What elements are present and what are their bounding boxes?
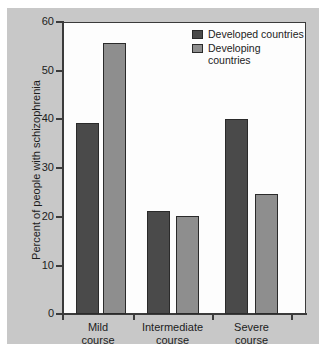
y-tick-label-20: 20 <box>42 211 54 222</box>
y-tick-50 <box>56 70 62 72</box>
legend-label-developed: Developed countries <box>208 28 304 40</box>
legend-swatch-developed-icon <box>192 30 203 39</box>
y-tick-label-10: 10 <box>42 260 54 271</box>
y-tick-label-0: 0 <box>48 308 54 319</box>
y-tick-20 <box>56 216 62 218</box>
y-tick-60 <box>56 21 62 23</box>
y-tick-40 <box>56 118 62 120</box>
x-tick-3 <box>291 314 293 320</box>
y-tick-10 <box>56 265 62 267</box>
x-category-label-intermediate: Intermediate course <box>133 321 212 347</box>
y-axis-title: Percent of people with schizophrenia <box>30 50 42 290</box>
legend-item-developing: Developing countries <box>192 42 304 66</box>
y-tick-30 <box>56 167 62 169</box>
x-category-label-severe: Severe course <box>212 321 291 347</box>
bar-developed-intermediate <box>147 211 170 314</box>
y-tick-label-50: 50 <box>42 65 54 76</box>
legend-label-developing: Developing countries <box>208 42 261 66</box>
legend-swatch-developing-icon <box>192 44 203 53</box>
x-category-label-mild: Mild course <box>63 321 133 347</box>
y-tick-label-60: 60 <box>42 16 54 27</box>
y-tick-label-30: 30 <box>42 162 54 173</box>
x-tick-0 <box>62 314 64 320</box>
legend-item-developed: Developed countries <box>192 28 304 40</box>
y-tick-label-40: 40 <box>42 113 54 124</box>
bar-developing-intermediate <box>176 216 199 314</box>
x-tick-1 <box>133 314 135 320</box>
chart-legend: Developed countries Developing countries <box>192 28 304 68</box>
bar-developed-severe <box>225 119 248 314</box>
bar-developing-severe <box>255 194 278 314</box>
chart-figure: 60 50 40 30 20 10 0 Percent of people wi… <box>0 0 326 358</box>
y-axis-line <box>62 21 64 314</box>
x-tick-2 <box>212 314 214 320</box>
bar-developing-mild <box>103 43 126 314</box>
bar-developed-mild <box>76 123 99 314</box>
